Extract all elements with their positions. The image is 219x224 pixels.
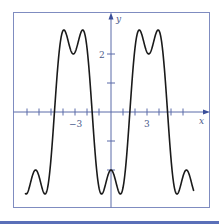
y-tick-label-2: 2	[99, 50, 105, 60]
x-axis-label: x	[199, 116, 204, 126]
y-axis-label: y	[115, 14, 122, 24]
bottom-color-band	[0, 221, 219, 224]
function-plot: y x −3 3 2	[0, 0, 219, 224]
x-tick-label-neg3: −3	[69, 119, 83, 129]
x-tick-label-3: 3	[144, 119, 150, 129]
